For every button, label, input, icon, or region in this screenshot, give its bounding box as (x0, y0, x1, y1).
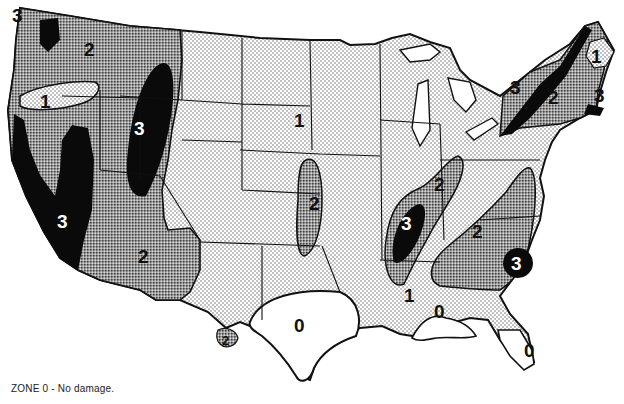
label-zone-3-new-madrid: 3 (401, 213, 412, 234)
label-zone-2-appalachia: 2 (472, 221, 483, 242)
us-damage-zone-map: 3 2 1 3 3 2 2 1 2 0 3 2 1 0 2 3 0 3 2 3 … (0, 0, 624, 404)
label-zone-2-ohio: 2 (434, 174, 445, 195)
label-zone-0-florida: 0 (524, 340, 535, 361)
label-zone-3-charleston: 3 (511, 253, 522, 274)
label-zone-3-intermountain: 3 (134, 118, 145, 139)
label-zone-1-mississippi: 1 (404, 285, 415, 306)
label-zone-1-plains: 1 (294, 110, 305, 131)
label-zone-2-kansas: 2 (309, 193, 320, 214)
label-zone-0-texas: 0 (294, 315, 305, 336)
legend-zone-0: ZONE 0 - No damage. (11, 383, 114, 394)
label-zone-3-california: 3 (57, 211, 68, 232)
label-zone-1-maine: 1 (591, 46, 602, 67)
label-zone-3-st-lawrence: 3 (510, 77, 521, 98)
label-zone-2-new-england: 2 (548, 87, 559, 108)
label-zone-3-boston: 3 (594, 85, 605, 106)
label-zone-3-puget: 3 (12, 5, 23, 26)
label-zone-0-gulf: 0 (434, 301, 445, 322)
label-zone-2-west-texas: 2 (222, 333, 229, 348)
label-zone-1-or: 1 (40, 91, 51, 112)
label-zone-2-wa: 2 (84, 39, 95, 60)
label-zone-2-arizona: 2 (138, 246, 149, 267)
